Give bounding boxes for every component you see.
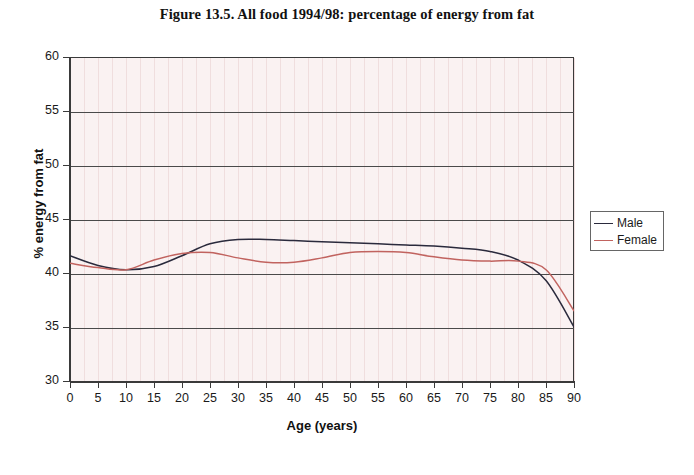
x-tick-label: 70: [447, 391, 477, 405]
y-tick-mark: [63, 57, 70, 58]
x-tick-label: 50: [335, 391, 365, 405]
legend-item-male: Male: [594, 215, 663, 232]
x-tick-mark: [490, 381, 491, 388]
x-tick-mark: [238, 381, 239, 388]
x-tick-mark: [378, 381, 379, 388]
x-tick-label: 45: [307, 391, 337, 405]
x-tick-mark: [546, 381, 547, 388]
x-tick-mark: [266, 381, 267, 388]
x-tick-label: 75: [475, 391, 505, 405]
y-tick-mark: [63, 111, 70, 112]
x-tick-label: 90: [559, 391, 589, 405]
minor-gridline-vertical: [574, 58, 575, 382]
y-tick-mark: [63, 327, 70, 328]
x-tick-mark: [462, 381, 463, 388]
x-tick-label: 20: [167, 391, 197, 405]
x-tick-mark: [518, 381, 519, 388]
y-tick-mark: [63, 273, 70, 274]
x-tick-mark: [574, 381, 575, 388]
x-tick-mark: [406, 381, 407, 388]
y-axis-label: % energy from fat: [31, 104, 46, 304]
line-series-male: [70, 239, 574, 327]
data-series-layer: [70, 57, 574, 381]
legend-item-label: Female: [617, 234, 657, 247]
x-tick-mark: [350, 381, 351, 388]
x-tick-label: 15: [139, 391, 169, 405]
x-tick-mark: [98, 381, 99, 388]
legend-item-label: Male: [617, 217, 643, 230]
legend: MaleFemale: [590, 211, 664, 251]
y-tick-mark: [63, 165, 70, 166]
y-tick-label: 60: [33, 49, 59, 63]
x-tick-label: 80: [503, 391, 533, 405]
x-tick-label: 5: [83, 391, 113, 405]
x-tick-mark: [434, 381, 435, 388]
legend-item-female: Female: [594, 232, 663, 249]
y-tick-mark: [63, 381, 70, 382]
x-tick-label: 55: [363, 391, 393, 405]
x-tick-mark: [154, 381, 155, 388]
line-series-female: [70, 251, 574, 310]
figure-area: Figure 13.5. All food 1994/98: percentag…: [0, 0, 694, 475]
y-tick-mark: [63, 219, 70, 220]
y-tick-label: 35: [33, 319, 59, 333]
x-tick-label: 0: [55, 391, 85, 405]
x-tick-label: 40: [279, 391, 309, 405]
x-tick-mark: [322, 381, 323, 388]
x-tick-label: 60: [391, 391, 421, 405]
x-tick-label: 35: [251, 391, 281, 405]
x-tick-mark: [70, 381, 71, 388]
x-tick-mark: [294, 381, 295, 388]
x-tick-label: 10: [111, 391, 141, 405]
x-tick-label: 30: [223, 391, 253, 405]
x-tick-mark: [210, 381, 211, 388]
x-tick-mark: [182, 381, 183, 388]
chart-title: Figure 13.5. All food 1994/98: percentag…: [0, 6, 694, 23]
legend-line-swatch: [594, 240, 613, 242]
y-tick-label: 30: [33, 373, 59, 387]
x-tick-label: 85: [531, 391, 561, 405]
x-axis-label: Age (years): [70, 418, 574, 433]
legend-line-swatch: [594, 223, 613, 225]
x-tick-label: 65: [419, 391, 449, 405]
x-tick-label: 25: [195, 391, 225, 405]
x-tick-mark: [126, 381, 127, 388]
